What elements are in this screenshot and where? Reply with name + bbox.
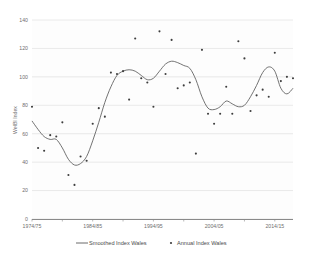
data-point	[171, 39, 173, 41]
data-point	[80, 155, 82, 157]
y-axis-tick-label: 20	[22, 187, 28, 193]
y-axis-tick-label: 140	[19, 17, 28, 23]
data-point	[55, 136, 57, 138]
y-axis-tick-labels: 020406080100120140	[19, 17, 28, 222]
data-point	[98, 107, 100, 109]
data-point	[286, 76, 288, 78]
data-point	[189, 81, 191, 83]
data-point	[146, 81, 148, 83]
y-axis-tick-label: 40	[22, 159, 28, 165]
y-axis-tick-label: 60	[22, 131, 28, 137]
y-axis-title: WelBI Index	[12, 106, 18, 134]
data-point	[201, 49, 203, 51]
x-axis-tick-label: 2004/05	[205, 223, 224, 229]
x-axis-tick-label: 1994/95	[144, 223, 163, 229]
data-point	[213, 123, 215, 125]
y-axis-tick-label: 120	[19, 45, 28, 51]
data-point	[237, 40, 239, 42]
data-point	[225, 86, 227, 88]
data-point	[134, 37, 136, 39]
legend-label-smoothed: Smoothed Index Wales	[89, 240, 147, 246]
data-point	[164, 73, 166, 75]
data-point	[274, 52, 276, 54]
y-axis-tick-label: 80	[22, 102, 28, 108]
data-point	[183, 84, 185, 86]
data-point	[110, 72, 112, 74]
data-point	[73, 184, 75, 186]
data-point	[280, 80, 282, 82]
x-axis-tick-labels: 1974/751984/851994/952004/052014/15	[23, 223, 285, 229]
data-point	[37, 147, 39, 149]
data-point	[152, 106, 154, 108]
data-point	[243, 57, 245, 59]
y-axis-tick-label: 0	[25, 216, 28, 222]
data-point	[67, 174, 69, 176]
data-point	[256, 94, 258, 96]
data-point	[207, 113, 209, 115]
x-axis-tick-label: 1984/85	[83, 223, 102, 229]
data-point	[140, 77, 142, 79]
x-axis-tick-label: 2014/15	[265, 223, 284, 229]
data-point	[122, 70, 124, 72]
data-point	[268, 96, 270, 98]
data-point	[43, 150, 45, 152]
data-point	[219, 113, 221, 115]
data-point	[231, 113, 233, 115]
data-point	[292, 77, 294, 79]
chart-container: 020406080100120140 1974/751984/851994/95…	[0, 0, 309, 260]
data-point	[262, 89, 264, 91]
data-point	[49, 134, 51, 136]
data-point	[177, 87, 179, 89]
plot-background	[32, 20, 293, 219]
data-point	[158, 30, 160, 32]
legend-label-annual: Annual Index Wales	[177, 240, 227, 246]
welbi-index-chart: 020406080100120140 1974/751984/851994/95…	[0, 0, 309, 260]
data-point	[128, 99, 130, 101]
data-point	[31, 106, 33, 108]
data-point	[249, 110, 251, 112]
y-axis-tick-label: 100	[19, 74, 28, 80]
legend: Smoothed Index Wales Annual Index Wales	[76, 240, 227, 246]
x-axis-tick-label: 1974/75	[23, 223, 42, 229]
data-point	[92, 123, 94, 125]
data-point	[61, 121, 63, 123]
data-point	[86, 160, 88, 162]
data-point	[116, 73, 118, 75]
data-point	[195, 153, 197, 155]
legend-dot-marker	[170, 242, 172, 244]
data-point	[104, 116, 106, 118]
